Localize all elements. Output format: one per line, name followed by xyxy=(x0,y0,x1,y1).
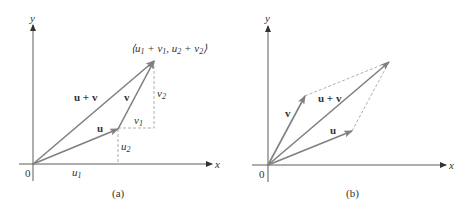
vector-u-plus-v xyxy=(33,61,154,164)
x-axis-label: x xyxy=(448,159,454,171)
label-u-plus-v: u + v xyxy=(74,91,98,103)
origin-label: 0 xyxy=(259,168,265,180)
vector-addition-diagram: x y 0 u v u + v u1 u2 v1 v2 ⟨u1 + v1, u2… xyxy=(0,0,465,210)
dashed-side-top xyxy=(305,62,389,96)
panel-b: x y 0 u v u + v (b) xyxy=(252,12,454,200)
sum-point-label: ⟨u1 + v1, u2 + v2⟩ xyxy=(131,42,208,56)
label-v: v xyxy=(124,91,130,103)
panel-a: x y 0 u v u + v u1 u2 v1 v2 ⟨u1 + v1, u2… xyxy=(19,12,220,200)
caption-a: (a) xyxy=(112,187,125,200)
origin-label: 0 xyxy=(25,167,31,179)
label-u: u xyxy=(97,122,103,134)
label-v: v xyxy=(285,107,291,119)
label-u-plus-v: u + v xyxy=(318,92,342,104)
x-axis-label: x xyxy=(214,158,220,170)
caption-b: (b) xyxy=(346,187,359,200)
label-u: u xyxy=(330,124,336,136)
component-u2: u2 xyxy=(121,140,131,154)
y-axis-label: y xyxy=(264,12,270,24)
component-u1: u1 xyxy=(72,166,82,180)
vector-u xyxy=(268,131,352,165)
component-v2: v2 xyxy=(157,87,166,101)
dashed-side-right xyxy=(352,62,389,131)
y-axis-label: y xyxy=(29,12,35,24)
vector-u xyxy=(33,129,118,164)
component-v1: v1 xyxy=(134,114,143,128)
